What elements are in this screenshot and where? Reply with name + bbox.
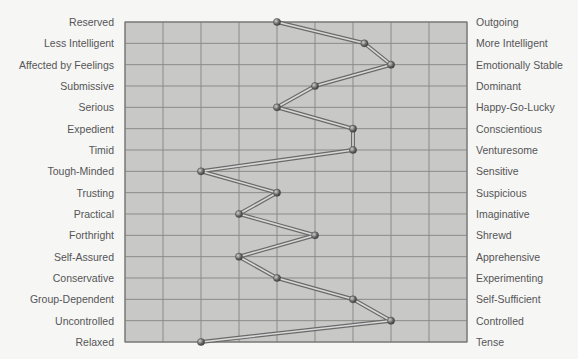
right-trait-label: More Intelligent: [476, 37, 548, 49]
right-trait-label: Shrewd: [476, 229, 512, 241]
data-point-marker: [311, 232, 318, 239]
data-point-marker: [387, 317, 394, 324]
plot-area: [125, 22, 467, 342]
right-trait-label: Apprehensive: [476, 251, 540, 263]
right-trait-label: Sensitive: [476, 165, 519, 177]
data-point-marker: [235, 253, 242, 260]
right-trait-label: Controlled: [476, 315, 524, 327]
left-trait-label: Practical: [74, 208, 114, 220]
data-point-marker: [273, 274, 280, 281]
left-trait-label: Submissive: [60, 80, 114, 92]
left-trait-label: Forthright: [69, 229, 114, 241]
left-trait-label: Reserved: [69, 16, 114, 28]
left-trait-label: Relaxed: [75, 336, 114, 348]
left-trait-label: Trusting: [76, 187, 114, 199]
left-trait-label: Conservative: [53, 272, 114, 284]
data-point-marker: [311, 82, 318, 89]
data-point-marker: [349, 125, 356, 132]
right-trait-labels: OutgoingMore IntelligentEmotionally Stab…: [476, 16, 563, 348]
right-trait-label: Imaginative: [476, 208, 530, 220]
left-trait-label: Expedient: [67, 123, 114, 135]
data-point-marker: [349, 146, 356, 153]
right-trait-label: Tense: [476, 336, 504, 348]
data-point-marker: [235, 210, 242, 217]
right-trait-label: Suspicious: [476, 187, 527, 199]
right-trait-label: Self-Sufficient: [476, 293, 541, 305]
left-trait-label: Tough-Minded: [47, 165, 114, 177]
data-point-marker: [361, 40, 368, 47]
left-trait-label: Self-Assured: [54, 251, 114, 263]
right-trait-label: Venturesome: [476, 144, 538, 156]
right-trait-label: Happy-Go-Lucky: [476, 101, 556, 113]
data-point-marker: [273, 104, 280, 111]
left-trait-label: Less Intelligent: [44, 37, 114, 49]
right-trait-label: Experimenting: [476, 272, 543, 284]
left-trait-label: Timid: [89, 144, 114, 156]
right-trait-label: Emotionally Stable: [476, 59, 563, 71]
data-point-marker: [273, 189, 280, 196]
data-point-marker: [273, 18, 280, 25]
right-trait-label: Dominant: [476, 80, 521, 92]
profile-chart: ReservedLess IntelligentAffected by Feel…: [0, 0, 578, 359]
right-trait-label: Outgoing: [476, 16, 519, 28]
data-point-marker: [387, 61, 394, 68]
data-point-marker: [349, 296, 356, 303]
right-trait-label: Conscientious: [476, 123, 542, 135]
left-trait-label: Uncontrolled: [55, 315, 114, 327]
left-trait-label: Group-Dependent: [30, 293, 114, 305]
left-trait-label: Affected by Feelings: [19, 59, 114, 71]
left-trait-labels: ReservedLess IntelligentAffected by Feel…: [19, 16, 114, 348]
data-point-marker: [197, 168, 204, 175]
data-point-marker: [197, 338, 204, 345]
left-trait-label: Serious: [78, 101, 114, 113]
